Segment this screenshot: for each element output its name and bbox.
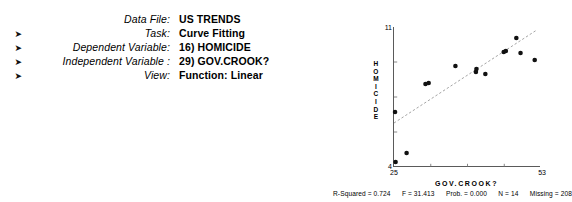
param-label-data-file: Data File: (25, 12, 179, 26)
y-axis-label-letter: H (371, 60, 381, 68)
stat-n: N = 14 (498, 189, 518, 198)
data-point (393, 160, 398, 165)
data-point (404, 151, 409, 156)
stat-missing: Missing = 208 (530, 189, 572, 198)
plot-canvas (394, 27, 541, 167)
data-point (518, 51, 523, 56)
param-row-view: ➤ View: Function: Linear (0, 68, 345, 82)
data-point (483, 72, 488, 77)
param-label-dependent-variable: Dependent Variable: (25, 40, 179, 54)
data-point (514, 36, 519, 41)
regression-line (394, 30, 537, 123)
data-points (393, 36, 537, 165)
param-label-independent-variable: Independent Variable : (25, 54, 179, 68)
param-label-task: Task: (25, 26, 179, 40)
param-value-independent-variable[interactable]: 29) GOV.CROOK? (179, 54, 345, 68)
x-tick-label-min: 25 (390, 169, 398, 177)
param-row-task: ➤ Task: Curve Fitting (0, 26, 345, 40)
param-value-task[interactable]: Curve Fitting (179, 26, 345, 40)
y-axis-label-letter: O (371, 68, 381, 76)
scatter-plot: HOMICIDE 11 4 25 53 GOV.CROOK? (360, 8, 565, 198)
arrow-icon: ➤ (0, 27, 25, 41)
axis-ticks (394, 62, 504, 167)
param-row-independent-variable: ➤ Independent Variable : 29) GOV.CROOK? (0, 54, 345, 68)
data-point (393, 110, 398, 115)
y-tick-label-max: 11 (385, 24, 394, 31)
parameter-panel: Data File: US TRENDS ➤ Task: Curve Fitti… (0, 12, 345, 82)
param-value-dependent-variable[interactable]: 16) HOMICIDE (179, 40, 345, 54)
data-point (453, 64, 458, 69)
param-value-view[interactable]: Function: Linear (179, 68, 345, 82)
y-axis-label-letter: M (371, 75, 381, 83)
x-axis-label: GOV.CROOK? (393, 180, 540, 187)
y-axis-label-letter: I (371, 98, 381, 106)
data-point (504, 49, 509, 54)
param-row-dependent-variable: ➤ Dependent Variable: 16) HOMICIDE (0, 40, 345, 54)
x-tick-label-max: 53 (538, 169, 546, 177)
y-axis-label-letter: D (371, 106, 381, 114)
stat-prob: Prob. = 0.000 (446, 189, 487, 198)
param-label-view: View: (25, 68, 179, 82)
param-row-data-file: Data File: US TRENDS (0, 12, 345, 26)
plot-area: 11 4 25 53 (393, 27, 540, 167)
stat-f-value: F = 31.413 (402, 189, 435, 198)
data-point (474, 67, 479, 72)
y-axis-label-letter: I (371, 83, 381, 91)
data-point (532, 58, 537, 63)
y-axis-label-letter: C (371, 90, 381, 98)
y-axis-label-letter: E (371, 113, 381, 121)
y-axis-label: HOMICIDE (371, 60, 381, 121)
param-value-data-file[interactable]: US TRENDS (179, 12, 345, 26)
arrow-icon: ➤ (0, 69, 25, 83)
arrow-icon: ➤ (0, 41, 25, 55)
data-point (426, 81, 431, 86)
stat-r-squared: R-Squared = 0.724 (333, 189, 391, 198)
statistics-row: R-Squared = 0.724 F = 31.413 Prob. = 0.0… (333, 189, 572, 198)
arrow-icon: ➤ (0, 55, 25, 69)
